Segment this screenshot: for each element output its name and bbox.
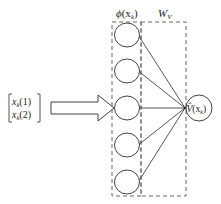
hidden-neuron-3 bbox=[115, 96, 140, 120]
network-diagram: ϕ(xk) WV V̂(xk) xk(1) bbox=[0, 0, 221, 204]
hidden-neurons bbox=[115, 23, 140, 194]
input-arrow bbox=[51, 95, 114, 121]
svg-text:V̂(xk): V̂(xk) bbox=[187, 102, 207, 115]
right-bracket bbox=[37, 94, 40, 122]
weights-box bbox=[141, 22, 186, 196]
hidden-layer-title: ϕ(xk) bbox=[116, 7, 138, 21]
hidden-neuron-1 bbox=[115, 23, 140, 47]
hidden-neuron-5 bbox=[115, 170, 140, 194]
input-x2: xk(2) bbox=[11, 109, 31, 121]
input-x1: xk(1) bbox=[11, 96, 31, 108]
weights-title: WV bbox=[158, 7, 172, 21]
input-vector: xk(1) xk(2) bbox=[9, 94, 40, 122]
svg-text:WV: WV bbox=[158, 7, 172, 21]
hidden-neuron-2 bbox=[115, 59, 140, 83]
weight-connections bbox=[140, 37, 186, 180]
svg-text:ϕ(xk): ϕ(xk) bbox=[116, 7, 138, 21]
output-label: V̂(xk) bbox=[187, 102, 207, 115]
hidden-neuron-4 bbox=[115, 133, 140, 157]
